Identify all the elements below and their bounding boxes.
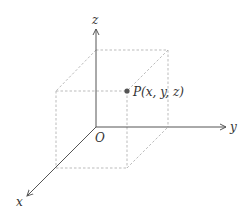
x-axis bbox=[27, 127, 96, 196]
x-axis-label: x bbox=[16, 195, 23, 209]
z-axis-label: z bbox=[91, 13, 99, 27]
point-p bbox=[124, 88, 129, 93]
origin-label: O bbox=[95, 131, 105, 145]
axes bbox=[27, 29, 226, 196]
y-axis-label: y bbox=[229, 120, 237, 134]
coordinate-diagram: z y x O P(x, y, z) bbox=[0, 0, 250, 223]
point-p-label: P(x, y, z) bbox=[132, 85, 184, 99]
